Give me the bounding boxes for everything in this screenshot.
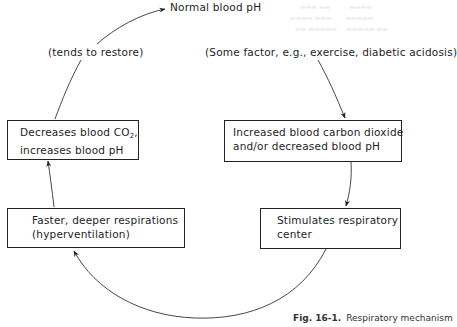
box-increased-co2-line1: Increased blood carbon dioxide [233, 125, 401, 139]
box-decreases-line1: Decreases blood CO2, [20, 125, 138, 143]
decreases-co2-text: Decreases blood CO [20, 126, 130, 138]
box-stimulates-line2: center [277, 227, 400, 241]
tends-to-restore-label: (tends to restore) [48, 46, 143, 59]
figure-caption-text: Respiratory mechanism [346, 313, 453, 323]
box-faster-respirations: Faster, deeper respirations (hyperventil… [7, 208, 185, 248]
arrow-trigger-to-increased-co2 [318, 60, 345, 118]
arrow-decreases-co2-to-restore [55, 60, 81, 119]
box-stimulates-respiratory-center: Stimulates respiratory center [260, 208, 401, 249]
box-increased-co2-line2: and/or decreased blood pH [233, 139, 401, 153]
figure-caption: Fig. 16-1.Respiratory mechanism [293, 313, 453, 323]
box-decreases-co2: Decreases blood CO2, increases blood pH [7, 120, 139, 160]
box-stimulates-line1: Stimulates respiratory [277, 213, 400, 227]
figure-number: Fig. 16-1. [293, 313, 341, 323]
trigger-factor-label: (Some factor, e.g., exercise, diabetic a… [205, 46, 457, 59]
box-respirations-line2: (hyperventilation) [32, 227, 184, 241]
box-respirations-line1: Faster, deeper respirations [32, 213, 184, 227]
arrow-respirations-to-decreases-co2 [48, 161, 54, 207]
box-increased-co2: Increased blood carbon dioxide and/or de… [224, 120, 402, 162]
arrow-restore-to-normal-ph [97, 9, 165, 44]
arrow-stimulates-to-respirations [74, 249, 326, 318]
comma: , [134, 126, 138, 138]
box-decreases-line2: increases blood pH [20, 143, 138, 157]
arrow-increased-co2-to-stimulates [346, 162, 351, 206]
normal-blood-ph-label: Normal blood pH [170, 1, 261, 14]
